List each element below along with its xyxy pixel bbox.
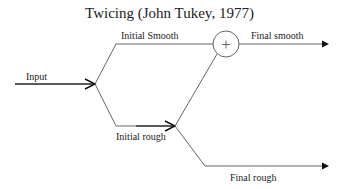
initial-smooth-path <box>95 44 213 84</box>
diagram-canvas <box>0 0 339 189</box>
twicing-diagram: Twicing (John Tukey, 1977) <box>0 0 339 189</box>
final-rough-label: Final rough <box>230 173 276 183</box>
initial-rough-label: Initial rough <box>116 132 166 142</box>
final-rough-arrow <box>175 126 329 170</box>
final-smooth-arrow <box>239 41 329 48</box>
final-smooth-label: Final smooth <box>251 31 304 41</box>
initial-smooth-label: Initial Smooth <box>121 31 179 41</box>
rough-to-sum-path <box>175 54 217 126</box>
input-label: Input <box>26 72 47 82</box>
initial-rough-path <box>95 84 175 131</box>
sum-node <box>213 31 239 57</box>
